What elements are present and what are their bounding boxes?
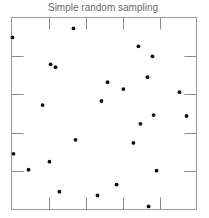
data-point — [106, 80, 110, 84]
data-points — [11, 27, 189, 209]
data-point — [146, 75, 150, 79]
scatter-chart: Simple random sampling — [0, 0, 209, 218]
data-point — [41, 103, 45, 107]
data-point — [147, 205, 151, 209]
data-point — [11, 36, 15, 40]
data-point — [12, 152, 16, 156]
chart-title: Simple random sampling — [48, 2, 158, 13]
data-point — [155, 169, 159, 173]
axis-ticks — [12, 18, 197, 210]
data-point — [74, 138, 78, 142]
data-point — [48, 160, 52, 164]
plot-frame — [12, 18, 197, 210]
data-point — [54, 65, 58, 69]
data-point — [58, 190, 62, 194]
data-point — [139, 122, 143, 126]
data-point — [151, 54, 155, 58]
data-point — [185, 114, 189, 118]
data-point — [115, 183, 119, 187]
data-point — [178, 90, 182, 94]
data-point — [122, 87, 126, 91]
data-point — [49, 62, 53, 66]
data-point — [152, 113, 156, 117]
data-point — [27, 168, 31, 172]
data-point — [100, 99, 104, 103]
data-point — [132, 141, 136, 145]
data-point — [72, 27, 76, 31]
data-point — [137, 44, 141, 48]
data-point — [96, 194, 100, 198]
